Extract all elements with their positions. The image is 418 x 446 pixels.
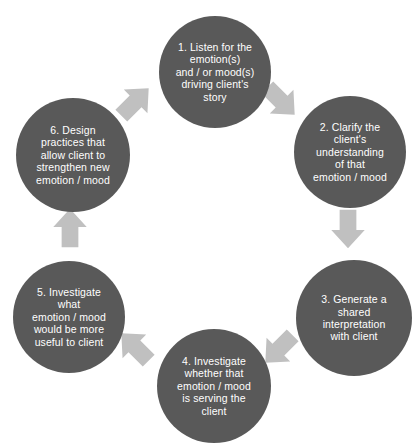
node-step-1: 1. Listen for the emotion(s) and / or mo… bbox=[159, 16, 271, 128]
arrow-2-to-3-icon bbox=[326, 207, 370, 251]
node-step-3: 3. Generate a shared interpretation with… bbox=[296, 260, 412, 376]
node-label-step-2: 2. Clarify the client's understanding of… bbox=[313, 121, 387, 183]
node-label-step-3: 3. Generate a shared interpretation with… bbox=[321, 293, 387, 343]
node-label-step-5: 5. Investigate what emotion / mood would… bbox=[32, 286, 106, 348]
node-step-6: 6. Design practices that allow client to… bbox=[16, 98, 130, 212]
cycle-diagram: 1. Listen for the emotion(s) and / or mo… bbox=[0, 0, 418, 446]
node-step-2: 2. Clarify the client's understanding of… bbox=[294, 96, 406, 208]
node-label-step-1: 1. Listen for the emotion(s) and / or mo… bbox=[176, 41, 255, 103]
node-step-4: 4. Investigate whether that emotion / mo… bbox=[157, 329, 271, 443]
node-label-step-4: 4. Investigate whether that emotion / mo… bbox=[177, 355, 251, 417]
node-label-step-6: 6. Design practices that allow client to… bbox=[36, 124, 110, 186]
arrow-5-to-6-icon bbox=[48, 206, 92, 250]
node-step-5: 5. Investigate what emotion / mood would… bbox=[13, 261, 125, 373]
